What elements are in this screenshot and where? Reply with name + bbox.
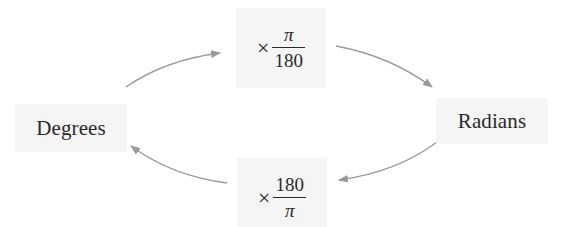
numerator: π [282,25,296,45]
radians-label: Radians [458,111,526,132]
multiply-sign: × [257,37,269,59]
degrees-node: Degrees [15,104,127,152]
denominator: 180 [272,51,305,71]
fraction-bar [272,47,305,49]
to-radians-factor-node: × π 180 [236,8,326,88]
numerator: 180 [273,175,306,195]
to-degrees-factor-node: × 180 π [237,158,327,227]
fraction-pi-over-180: π 180 [272,25,305,71]
conversion-diagram: Degrees Radians × π 180 × 180 π [0,0,565,227]
denominator: π [283,201,297,221]
arrow-factor-to-degrees [131,146,227,183]
to-degrees-factor: × 180 π [258,175,306,221]
degrees-label: Degrees [36,118,106,139]
fraction-180-over-pi: 180 π [273,175,306,221]
to-radians-factor: × π 180 [257,25,305,71]
fraction-bar [273,197,306,199]
multiply-sign: × [258,187,270,209]
arrow-factor-to-radians [336,46,432,87]
arrow-degrees-to-factor [126,53,220,87]
radians-node: Radians [436,98,548,144]
arrow-radians-to-factor [339,142,437,180]
